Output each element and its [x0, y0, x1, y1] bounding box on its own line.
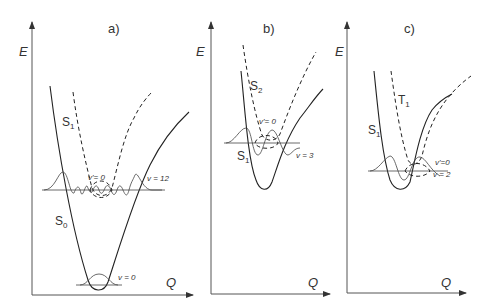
t1-curve [391, 71, 471, 164]
s1-label-b: S1 [237, 149, 250, 165]
t1-label: T1 [398, 93, 410, 109]
level-v0: v = 0 [118, 273, 136, 282]
potential-energy-diagram: a) E Q v'= 0 v = 12 v = 0 S1 S0 b) E Q [0, 0, 491, 308]
coordinate-axis-label: Q [441, 275, 451, 290]
energy-axis-label: E [196, 44, 205, 59]
s0-curve [50, 86, 189, 290]
level-vprime0-c: v'=0 [435, 158, 450, 167]
s0-label: S0 [55, 214, 68, 230]
panel-a-label: a) [108, 21, 120, 36]
panel-c-label: c) [404, 21, 415, 36]
energy-axis-label: E [335, 44, 344, 59]
coordinate-axis-label: Q [308, 275, 318, 290]
v2-wavefunction [370, 156, 440, 180]
panel-b-label: b) [263, 21, 275, 36]
level-v12: v = 12 [147, 174, 170, 183]
level-vprime0-a: v'= 0 [88, 173, 105, 182]
level-v2: v = 2 [433, 170, 451, 179]
s1-label-c: S1 [368, 123, 381, 139]
level-vprime0-b: v'= 0 [259, 117, 276, 126]
panel-c: c) E Q v'=0 v = 2 T1 S1 [335, 21, 471, 293]
panel-a: a) E Q v'= 0 v = 12 v = 0 S1 S0 [19, 21, 193, 295]
level-v3: v = 3 [296, 151, 314, 160]
panel-b: b) E Q v'= 0 v = 3 S2 S1 [196, 21, 330, 294]
v0-wavefunction [80, 274, 118, 285]
energy-axis-label: E [19, 44, 28, 59]
coordinate-axis-label: Q [166, 275, 176, 290]
s2-label: S2 [250, 79, 263, 95]
s1-label-a: S1 [62, 115, 75, 131]
